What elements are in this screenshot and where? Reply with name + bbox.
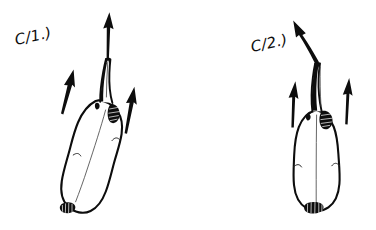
flow-arrow-left-c1: [61, 69, 75, 114]
panel-label-c2: C/2.): [249, 31, 289, 56]
neck-midline: [320, 67, 321, 106]
arrow-shaft-head: [289, 81, 299, 127]
flow-arrow-left-c2: [289, 81, 299, 127]
basal-plate-c2: [304, 202, 323, 213]
panel-c2: C/2.): [249, 21, 353, 214]
arrow-curved-shaft-head: [293, 21, 319, 64]
outflow-arrow-main-c1: [103, 12, 113, 58]
arrow-shaft-head: [125, 87, 137, 134]
left-shoulder-mark: [95, 103, 100, 110]
flow-arrow-right-c1: [125, 87, 137, 134]
basal-plate-c1: [60, 202, 76, 213]
panel-label-c1: C/1.): [13, 24, 53, 49]
arrow-shaft-head: [343, 78, 353, 124]
organ-c2: [294, 62, 340, 214]
arrow-shaft-head: [61, 69, 75, 114]
flow-arrow-right-c2: [343, 78, 353, 124]
panel-c1: C/1.): [13, 12, 137, 213]
diagram-canvas: C/1.): [0, 0, 376, 230]
left-shoulder-mark: [306, 114, 311, 121]
figure-sheet: C/1.): [0, 0, 376, 230]
outflow-arrow-main-c2: [293, 21, 319, 64]
basal-plate-mass: [304, 202, 323, 213]
arrow-shaft-head: [103, 12, 113, 58]
shoulder-stipple-patch-c2: [319, 111, 332, 130]
stipple-mass: [319, 111, 332, 130]
